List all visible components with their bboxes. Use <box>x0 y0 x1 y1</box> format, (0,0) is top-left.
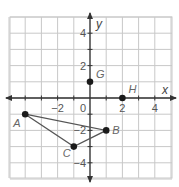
x-axis-label: x <box>161 83 169 97</box>
coordinate-plane: −22442−2−4 ABCGH x y 0 <box>0 0 179 187</box>
point-label-c: C <box>63 147 71 159</box>
x-tick-label: 4 <box>152 102 158 114</box>
y-axis-label: y <box>95 17 103 31</box>
point-label-h: H <box>128 83 136 95</box>
point-b <box>103 127 110 134</box>
y-tick-label: 4 <box>80 27 86 39</box>
point-h <box>119 95 126 102</box>
point-g <box>87 79 94 86</box>
point-c <box>71 143 78 150</box>
axes <box>6 13 176 182</box>
point-label-b: B <box>112 124 119 136</box>
y-tick-label: −4 <box>73 157 86 169</box>
point-a <box>22 111 29 118</box>
origin-label: 0 <box>80 102 86 114</box>
point-label-a: A <box>12 117 20 129</box>
point-label-g: G <box>96 68 105 80</box>
x-tick-label: 2 <box>119 102 125 114</box>
x-tick-label: −2 <box>51 102 64 114</box>
y-tick-label: 2 <box>80 60 86 72</box>
